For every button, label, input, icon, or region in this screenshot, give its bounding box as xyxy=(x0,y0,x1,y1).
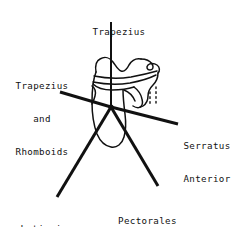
label-latissimus-dorsi-line1: Latissimus xyxy=(4,223,96,227)
convergence-point xyxy=(108,104,113,109)
label-pectorales-line1: Pectorales xyxy=(118,215,198,226)
scapula-spine-lower xyxy=(93,75,156,84)
label-trapezius: Trapezius xyxy=(74,4,164,59)
label-latissimus-dorsi: Latissimus Dorsi xyxy=(4,201,96,227)
scapula-spine-upper xyxy=(94,71,157,78)
glenoid-neck-detail xyxy=(134,87,142,107)
label-serratus-anterior-line2: Anterior xyxy=(178,173,236,184)
lateral-angle-inner xyxy=(124,90,135,101)
label-trapezius-and-rhomboids: Trapezius and Rhomboids xyxy=(3,58,81,179)
label-trapezius-line1: Trapezius xyxy=(74,26,164,37)
label-pectorales: Pectorales xyxy=(118,193,198,227)
label-serratus-anterior-line1: Serratus xyxy=(178,140,236,151)
label-trapezius-and-rhomboids-line2: and xyxy=(3,113,81,124)
label-trapezius-and-rhomboids-line3: Rhomboids xyxy=(3,146,81,157)
dotted-detail-line xyxy=(150,87,156,106)
anatomy-diagram: Trapezius Trapezius and Rhomboids Serrat… xyxy=(0,0,237,227)
scapula-superior-border xyxy=(96,58,141,72)
infraspinous-fossa-contour xyxy=(93,84,134,90)
label-trapezius-and-rhomboids-line1: Trapezius xyxy=(3,80,81,91)
